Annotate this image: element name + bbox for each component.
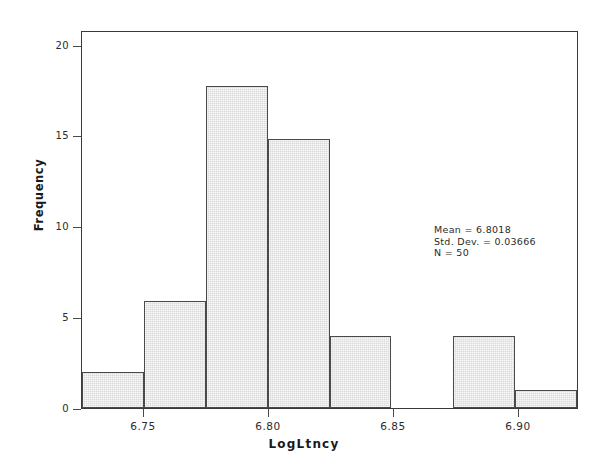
- histogram-bar: [206, 86, 268, 408]
- x-axis-label-6-75: 6.75: [113, 420, 173, 432]
- y-axis-label-5: 5: [29, 312, 69, 323]
- histogram-bar: [144, 301, 206, 408]
- y-axis-label-20: 20: [29, 40, 69, 51]
- x-axis-tick-6-90: [518, 409, 519, 417]
- histogram-figure: 20 15 10 5 0 Frequency 6.75 6.80 6.85 6.…: [0, 0, 608, 465]
- x-axis-tick-6-85: [393, 409, 394, 417]
- x-axis-title: LogLtncy: [0, 437, 608, 451]
- x-axis-tick-6-75: [143, 409, 144, 417]
- stats-stddev: Std. Dev. = 0.03666: [434, 236, 536, 248]
- x-axis-tick-6-80: [268, 409, 269, 417]
- histogram-bar: [330, 336, 392, 408]
- stats-mean: Mean = 6.8018: [434, 224, 536, 236]
- y-axis-label-0: 0: [29, 403, 69, 414]
- stats-annotation: Mean = 6.8018 Std. Dev. = 0.03666 N = 50: [434, 224, 536, 259]
- histogram-bar: [268, 139, 330, 408]
- y-axis-tick-20: [73, 46, 81, 47]
- histogram-bar: [82, 372, 144, 408]
- x-axis-label-6-80: 6.80: [238, 420, 298, 432]
- histogram-bar: [515, 390, 577, 408]
- y-axis-tick-15: [73, 136, 81, 137]
- y-axis-tick-10: [73, 227, 81, 228]
- stats-n: N = 50: [434, 247, 536, 259]
- y-axis-tick-0: [73, 409, 81, 410]
- x-axis-label-6-85: 6.85: [363, 420, 423, 432]
- x-axis-label-6-90: 6.90: [488, 420, 548, 432]
- y-axis-title: Frequency: [32, 135, 46, 255]
- y-axis-tick-5: [73, 318, 81, 319]
- plot-area: [81, 31, 578, 409]
- histogram-bar: [453, 336, 515, 408]
